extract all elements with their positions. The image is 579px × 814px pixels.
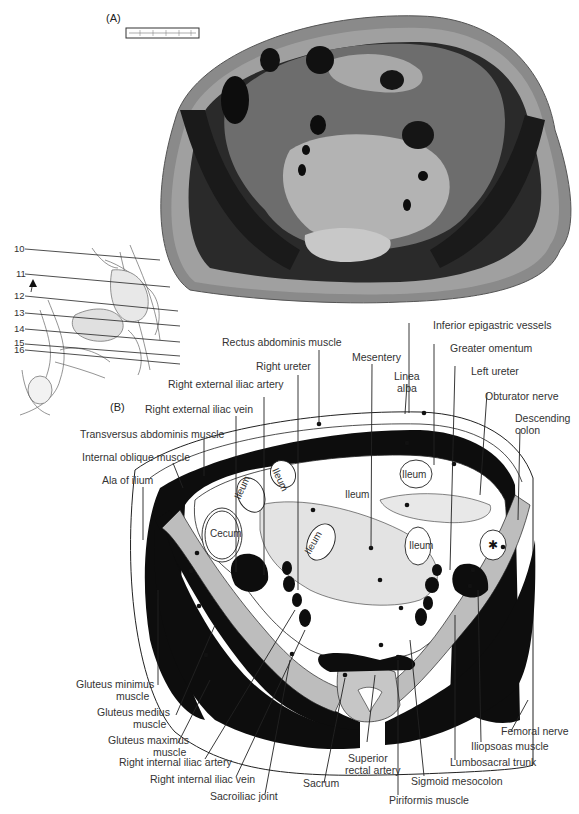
cadaver-section-photo bbox=[161, 16, 571, 303]
label-iliopsoas: Iliopsoas muscle bbox=[471, 740, 549, 752]
label-gluteus-minimus-2: muscle bbox=[116, 690, 149, 702]
label-femoral-nerve: Femoral nerve bbox=[501, 725, 569, 737]
level-11: 11 bbox=[16, 268, 26, 279]
cecum-label: Cecum bbox=[210, 528, 242, 539]
current-level-arrow-icon bbox=[29, 279, 37, 287]
label-superior-rectal-1: Superior bbox=[348, 752, 388, 764]
ileum-label-1: Ileum bbox=[402, 469, 426, 480]
label-greater-omentum: Greater omentum bbox=[450, 342, 533, 354]
label-right-external-iliac-artery: Right external iliac artery bbox=[168, 378, 284, 390]
label-ala-of-ilium: Ala of ilium bbox=[102, 474, 154, 486]
label-sacrum: Sacrum bbox=[303, 777, 339, 789]
label-mesentery: Mesentery bbox=[352, 351, 402, 363]
label-gluteus-medius-2: muscle bbox=[133, 718, 166, 730]
label-linea-alba-1: Linea bbox=[394, 370, 420, 382]
current-level-arrow-stem bbox=[31, 287, 32, 292]
label-superior-rectal-2: rectal artery bbox=[345, 764, 401, 776]
label-linea-alba-2: alba bbox=[397, 382, 417, 394]
label-obturator-nerve: Obturator nerve bbox=[485, 390, 559, 402]
label-right-internal-iliac-vein: Right internal iliac vein bbox=[150, 773, 255, 785]
label-gluteus-medius-1: Gluteus medius bbox=[97, 706, 170, 718]
label-sigmoid-mesocolon: Sigmoid mesocolon bbox=[411, 775, 503, 787]
panel-a-label: (A) bbox=[106, 12, 121, 24]
level-lines bbox=[25, 249, 180, 364]
label-right-ureter: Right ureter bbox=[256, 360, 311, 372]
label-lumbosacral-trunk: Lumbosacral trunk bbox=[450, 756, 537, 768]
anatomy-figure: (A) bbox=[0, 0, 579, 814]
label-rectus-abdominis: Rectus abdominis muscle bbox=[222, 336, 342, 348]
level-13: 13 bbox=[14, 307, 25, 318]
level-16: 16 bbox=[14, 344, 25, 355]
scale-bar bbox=[126, 28, 199, 38]
label-right-internal-iliac-artery: Right internal iliac artery bbox=[119, 756, 232, 768]
label-descending-colon-1: Descending bbox=[515, 412, 571, 424]
label-left-ureter: Left ureter bbox=[471, 365, 519, 377]
descending-colon-lumen-icon: ✱ bbox=[488, 538, 498, 552]
label-transversus-abdominis: Transversus abdominis muscle bbox=[80, 428, 224, 440]
ileum-label-3: Ileum bbox=[409, 540, 433, 551]
label-descending-colon-2: colon bbox=[515, 424, 540, 436]
cross-section-drawing: ✱ bbox=[131, 411, 536, 776]
level-14: 14 bbox=[14, 323, 25, 334]
ileum-label-2: Ileum bbox=[345, 489, 369, 500]
label-sacroiliac-joint: Sacroiliac joint bbox=[210, 790, 278, 802]
level-numbers: 10 11 12 13 14 15 16 bbox=[14, 243, 26, 355]
label-piriformis: Piriformis muscle bbox=[389, 794, 469, 806]
panel-b-label: (B) bbox=[110, 401, 125, 413]
label-right-external-iliac-vein: Right external iliac vein bbox=[145, 403, 253, 415]
level-12: 12 bbox=[14, 290, 25, 301]
level-10: 10 bbox=[14, 243, 25, 254]
label-gluteus-maximus-1: Gluteus maximus bbox=[108, 734, 189, 746]
label-internal-oblique: Internal oblique muscle bbox=[82, 451, 190, 463]
label-gluteus-minimus-1: Gluteus minimus bbox=[76, 678, 154, 690]
label-inferior-epigastric-vessels: Inferior epigastric vessels bbox=[433, 319, 551, 331]
